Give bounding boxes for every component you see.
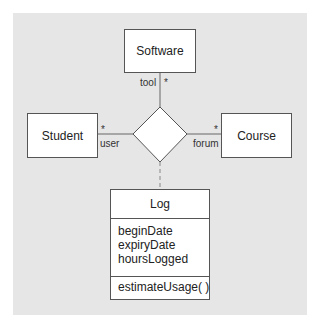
class-course-name: Course: [237, 129, 276, 143]
class-software-name: Software: [136, 44, 183, 58]
association-diamond[interactable]: [133, 107, 187, 162]
class-log-attributes: beginDate expiryDate hoursLogged: [111, 219, 209, 277]
role-forum-label: forum: [193, 139, 219, 149]
class-student-name: Student: [42, 129, 83, 143]
attribute-begin-date: beginDate: [118, 224, 209, 238]
role-tool-label: tool: [140, 78, 156, 88]
role-user-label: user: [100, 139, 119, 149]
class-log[interactable]: Log beginDate expiryDate hoursLogged est…: [110, 189, 210, 300]
class-software[interactable]: Software: [124, 29, 196, 73]
attribute-expiry-date: expiryDate: [118, 238, 209, 252]
attribute-hours-logged: hoursLogged: [118, 252, 209, 266]
class-student[interactable]: Student: [27, 113, 98, 158]
class-log-name-compartment: Log: [111, 190, 209, 219]
multiplicity-course: *: [214, 125, 218, 135]
class-log-name: Log: [150, 197, 170, 211]
operation-estimate-usage: estimateUsage( ): [118, 280, 209, 294]
multiplicity-software: *: [164, 78, 168, 88]
class-log-operations: estimateUsage( ): [111, 277, 209, 294]
multiplicity-student: *: [101, 125, 105, 135]
class-course[interactable]: Course: [221, 113, 292, 158]
